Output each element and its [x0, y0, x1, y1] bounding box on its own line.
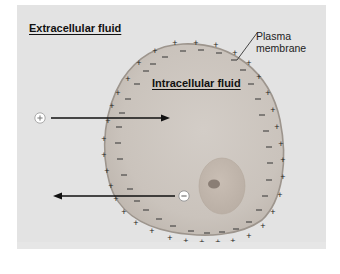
nucleolus — [208, 180, 220, 189]
svg-text:+: + — [125, 74, 130, 84]
svg-text:+: + — [105, 116, 110, 126]
plasma-membrane-label-line2: membrane — [256, 42, 306, 54]
svg-text:+: + — [108, 181, 113, 191]
positive-ion-icon — [35, 113, 45, 123]
svg-text:+: + — [277, 190, 282, 200]
svg-text:+: + — [115, 88, 120, 98]
svg-text:+: + — [270, 105, 275, 115]
svg-text:+: + — [149, 226, 154, 236]
svg-text:+: + — [278, 139, 283, 149]
svg-text:+: + — [260, 221, 265, 231]
panel-bottom-strip — [17, 242, 326, 249]
svg-text:+: + — [101, 134, 106, 144]
svg-text:+: + — [109, 101, 114, 111]
svg-text:+: + — [280, 155, 285, 165]
nucleus — [199, 158, 245, 214]
extracellular-fluid-label: Extracellular fluid — [29, 22, 121, 34]
svg-text:+: + — [193, 38, 198, 48]
plasma-membrane-label-line1: Plasma — [256, 30, 306, 42]
svg-text:+: + — [101, 150, 106, 160]
plasma-membrane-label: Plasma membrane — [256, 30, 306, 54]
svg-text:+: + — [274, 122, 279, 132]
negative-ion-icon — [179, 191, 189, 201]
svg-text:+: + — [121, 207, 126, 217]
svg-text:+: + — [246, 231, 251, 241]
svg-text:+: + — [265, 88, 270, 98]
svg-text:+: + — [280, 172, 285, 182]
svg-text:+: + — [136, 58, 141, 68]
svg-text:+: + — [256, 72, 261, 82]
intracellular-fluid-label: Intracellular fluid — [152, 77, 241, 89]
svg-text:+: + — [246, 58, 251, 68]
svg-text:+: + — [152, 46, 157, 56]
svg-text:+: + — [172, 38, 177, 48]
svg-text:+: + — [232, 48, 237, 58]
membrane-pointer — [237, 33, 257, 60]
svg-text:+: + — [113, 194, 118, 204]
svg-text:+: + — [104, 166, 109, 176]
svg-text:+: + — [270, 207, 275, 217]
svg-text:+: + — [133, 218, 138, 228]
svg-text:+: + — [213, 40, 218, 50]
